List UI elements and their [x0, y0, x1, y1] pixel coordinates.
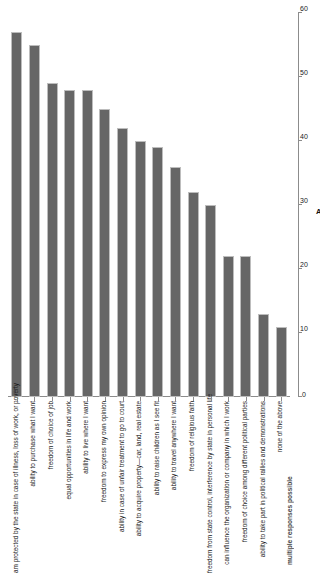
category-tick [140, 397, 141, 401]
category-tick [17, 397, 18, 401]
bar-rect [64, 90, 75, 397]
category-label-0: am protected by the state in case of ill… [13, 401, 19, 573]
bar-rect [11, 32, 22, 397]
bar-15 [276, 13, 287, 397]
bar-rect [117, 128, 128, 397]
category-tick [246, 397, 247, 401]
category-label-12: can influence the organization or compan… [224, 401, 230, 573]
bar-rect [152, 147, 163, 397]
bar-8 [152, 13, 163, 397]
bar-rect [223, 256, 234, 397]
category-tick [52, 397, 53, 401]
category-label-7: ability to acquire property—car, land, r… [136, 401, 142, 573]
bar-11 [205, 13, 216, 397]
category-label-5: freedom to express my own opinion [101, 401, 107, 573]
category-label-11: freedom from state control, interference… [207, 401, 213, 573]
category-tick [34, 397, 35, 401]
category-label-4: ability to live where I want [83, 401, 89, 573]
bar-1 [29, 13, 40, 397]
category-label-10: freedom of religious faith [189, 401, 195, 573]
bar-2 [47, 13, 58, 397]
bar-rect [29, 45, 40, 397]
bar-0 [11, 13, 22, 397]
category-label-6: ability in case of unfair treatment to g… [119, 401, 125, 573]
bar-14 [258, 13, 269, 397]
bar-9 [170, 13, 181, 397]
bar-rect [205, 205, 216, 397]
bar-rect [258, 314, 269, 397]
category-tick [105, 397, 106, 401]
bar-rect [276, 327, 287, 397]
category-tick [211, 397, 212, 401]
category-label-15: none of the above [277, 401, 283, 573]
bar-rect [82, 90, 93, 397]
category-label-9: ability to travel anywhere I want [171, 401, 177, 573]
category-tick [123, 397, 124, 401]
category-tick [175, 397, 176, 401]
category-label-2: freedom of choice of job [48, 401, 54, 573]
bar-rect [170, 167, 181, 397]
bar-rect [240, 256, 251, 397]
category-label-1: ability to purchase what I want [30, 401, 36, 573]
bar-5 [99, 13, 110, 397]
bar-series [8, 13, 290, 397]
category-tick [70, 397, 71, 401]
category-tick [158, 397, 159, 401]
bar-13 [240, 13, 251, 397]
bar-rect [99, 109, 110, 397]
category-label-14: ability to take part in political rallie… [260, 401, 266, 573]
bar-7 [135, 13, 146, 397]
category-tick [264, 397, 265, 401]
category-tick [281, 397, 282, 401]
bar-3 [64, 13, 75, 397]
figure-title: multiple responses possible [286, 476, 293, 565]
bar-6 [117, 13, 128, 397]
category-label-8: ability to raise children as I see fit [154, 401, 160, 573]
category-tick [87, 397, 88, 401]
category-tick [193, 397, 194, 401]
plot-area: 0102030405060 [8, 13, 290, 397]
bar-10 [188, 13, 199, 397]
chart-figure: multiple responses possible 010203040506… [0, 0, 298, 573]
bar-4 [82, 13, 93, 397]
bar-rect [47, 83, 58, 397]
bar-rect [188, 192, 199, 397]
bar-12 [223, 13, 234, 397]
category-tick [228, 397, 229, 401]
bar-rect [135, 141, 146, 397]
category-label-13: freedom of choice among different politi… [242, 401, 248, 573]
category-label-3: equal opportunities in life and work [66, 401, 72, 573]
